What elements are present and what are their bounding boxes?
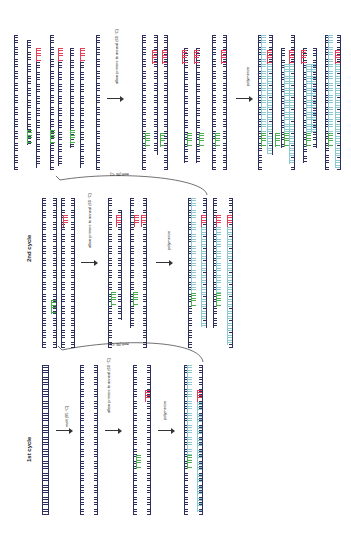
step-melt-label: melt (95 °C) bbox=[110, 172, 129, 176]
melt-curve-arrows bbox=[0, 0, 351, 533]
step-melt-label: melt (95 °C) bbox=[110, 342, 129, 346]
